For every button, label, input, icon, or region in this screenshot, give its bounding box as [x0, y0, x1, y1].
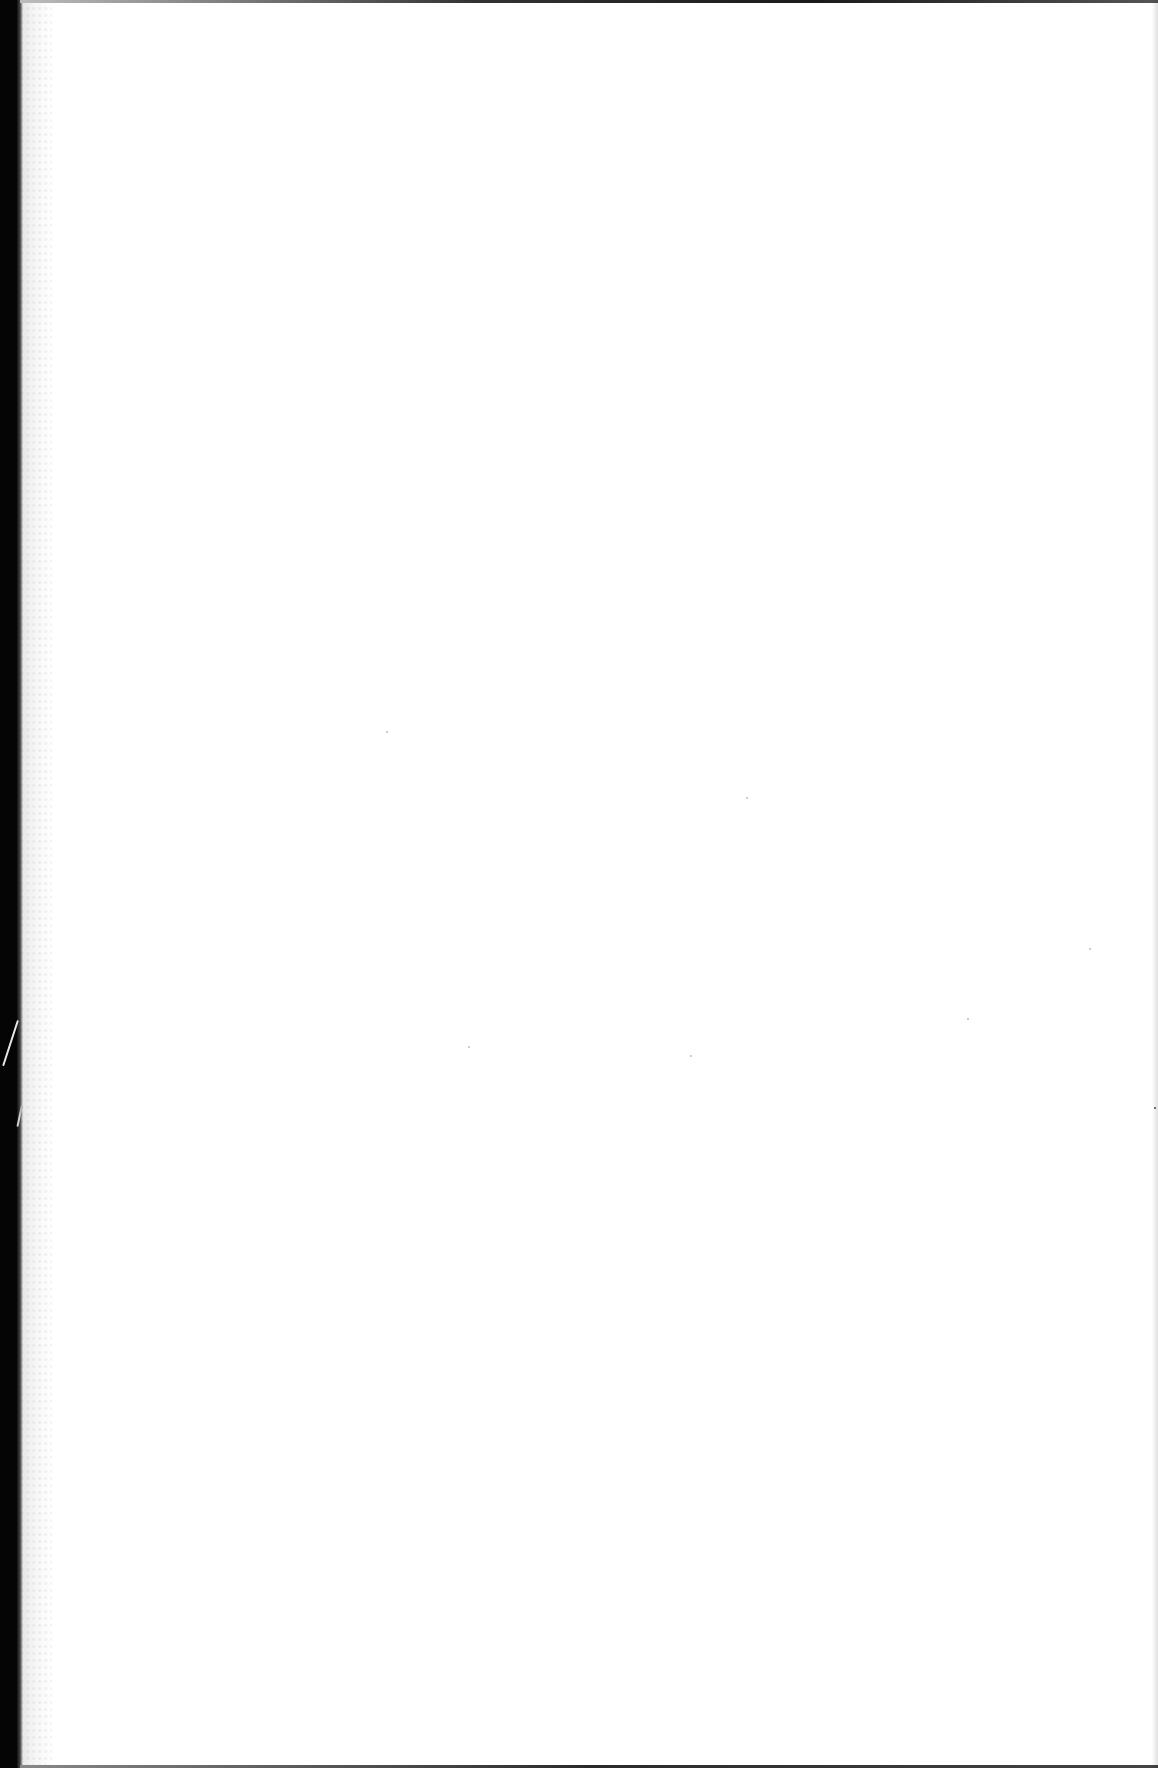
dust-speck	[1089, 948, 1091, 950]
page-right-edge	[1152, 0, 1158, 1768]
dust-speck	[967, 1018, 969, 1020]
dust-speck	[690, 1055, 692, 1057]
binding-strip	[0, 0, 20, 1768]
dust-speck	[1154, 1107, 1156, 1109]
page-body	[52, 3, 1152, 1765]
dust-speck	[386, 731, 388, 733]
gutter-shadow	[20, 0, 52, 1768]
dust-speck	[746, 797, 748, 799]
scanned-page	[0, 0, 1158, 1768]
dust-speck	[468, 1046, 470, 1048]
